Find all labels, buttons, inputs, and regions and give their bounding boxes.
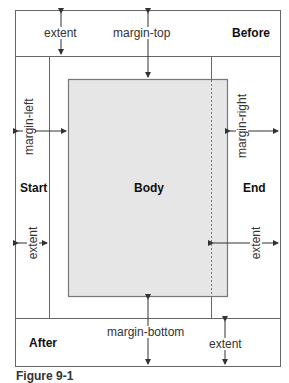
end-region-label: End bbox=[243, 182, 266, 194]
after-region-label: After bbox=[29, 337, 57, 349]
before-region-label: Before bbox=[232, 27, 270, 39]
extent-before-label: extent bbox=[43, 27, 78, 39]
figure-caption: Figure 9-1 bbox=[16, 369, 73, 383]
margin-bottom-label: margin-bottom bbox=[106, 326, 185, 338]
extent-after-label: extent bbox=[208, 338, 243, 350]
start-region-label: Start bbox=[20, 182, 47, 194]
margin-top-label: margin-top bbox=[112, 27, 171, 39]
margin-right-label: margin-right bbox=[236, 102, 248, 158]
extent-start-label: extent bbox=[27, 222, 39, 264]
body-region-label: Body bbox=[134, 182, 164, 194]
margin-left-label: margin-left bbox=[23, 105, 35, 155]
extent-end-label: extent bbox=[250, 222, 262, 264]
